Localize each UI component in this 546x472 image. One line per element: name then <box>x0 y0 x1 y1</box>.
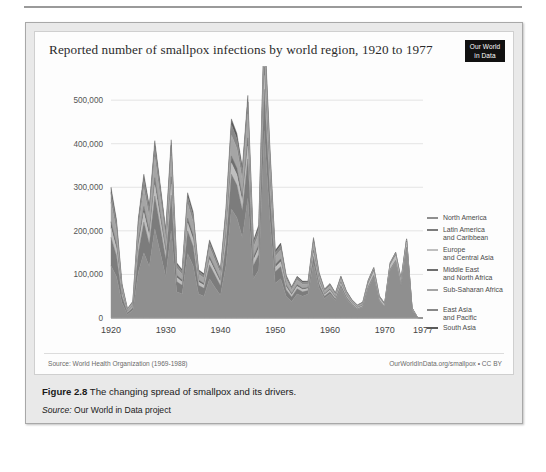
legend-label-middle-east-and-north-africa[interactable]: Middle East and North Africa <box>443 266 492 281</box>
our-world-in-data-logo: Our World in Data <box>465 40 505 62</box>
chart-card: Reported number of smallpox infections b… <box>34 31 514 375</box>
figure-page: Reported number of smallpox infections b… <box>0 0 546 472</box>
legend-swatch <box>427 327 438 329</box>
x-tick-label: 1960 <box>320 325 340 335</box>
figure-number: Figure 2.8 <box>42 386 87 397</box>
figure-source-label: Source: <box>42 405 72 415</box>
legend-swatch <box>427 229 438 231</box>
x-tick-label: 1930 <box>156 325 176 335</box>
legend-swatch <box>427 289 438 291</box>
card-footer-divider <box>44 353 504 354</box>
figure-caption: Figure 2.8 The changing spread of smallp… <box>42 385 510 417</box>
figure-box: Reported number of smallpox infections b… <box>25 22 523 424</box>
figure-source-text: Our World in Data project <box>74 405 171 415</box>
x-tick-label: 1970 <box>375 325 395 335</box>
legend-label-latin-america-and-caribbean[interactable]: Latin America and Caribbean <box>443 226 488 241</box>
y-tick-label: 200,000 <box>73 227 103 236</box>
legend-swatch <box>427 249 438 251</box>
logo-line-1: Our World <box>465 42 505 51</box>
legend-swatch <box>427 217 438 219</box>
y-tick-label: 500,000 <box>73 96 103 105</box>
chart-legend: North AmericaLatin America and Caribbean… <box>427 66 513 356</box>
legend-label-europe-and-central-asia[interactable]: Europe and Central Asia <box>443 246 494 261</box>
legend-label-south-asia[interactable]: South Asia <box>443 324 476 332</box>
chart-source-note: Source: World Health Organization (1969-… <box>48 360 188 367</box>
legend-label-north-america[interactable]: North America <box>443 214 487 222</box>
page-top-rule <box>24 6 522 8</box>
legend-swatch <box>427 309 438 311</box>
logo-line-2: in Data <box>465 51 505 60</box>
y-tick-label: 100,000 <box>73 270 103 279</box>
legend-label-sub-saharan-africa[interactable]: Sub-Saharan Africa <box>443 286 503 294</box>
plot-area: 0100,000200,000300,000400,000500,0001920… <box>35 66 513 356</box>
x-tick-label: 1920 <box>101 325 121 335</box>
x-tick-label: 1940 <box>210 325 230 335</box>
chart-title: Reported number of smallpox infections b… <box>49 42 433 58</box>
y-tick-label: 400,000 <box>73 140 103 149</box>
legend-swatch <box>427 269 438 271</box>
y-tick-label: 300,000 <box>73 183 103 192</box>
y-tick-label: 0 <box>98 314 103 323</box>
chart-attribution[interactable]: OurWorldInData.org/smallpox • CC BY <box>389 360 502 367</box>
figure-caption-text: The changing spread of smallpox and its … <box>90 386 296 397</box>
x-tick-label: 1950 <box>265 325 285 335</box>
legend-label-east-asia-and-pacific[interactable]: East Asia and Pacific <box>443 306 477 321</box>
